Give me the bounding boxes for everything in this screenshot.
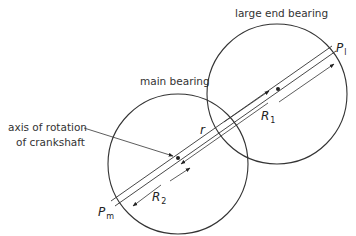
P-l-symbol: Pl	[336, 42, 346, 57]
R2-symbol: R2	[152, 191, 166, 206]
axis-leader-line	[84, 128, 173, 156]
crank-lines	[111, 46, 336, 206]
diagram-canvas	[0, 0, 356, 236]
R1-arrow	[279, 64, 334, 102]
axis-label-line1: axis of rotation	[8, 122, 87, 133]
crankshaft-axis-dot	[176, 156, 180, 160]
lower-force-arrow	[170, 168, 190, 181]
r-symbol: r	[200, 124, 205, 136]
main-bearing-circle	[108, 94, 248, 234]
large-end-bearing-label: large end bearing	[235, 8, 328, 19]
main-bearing-label: main bearing	[140, 76, 210, 87]
P-m-symbol: Pm	[98, 206, 114, 221]
axis-label-line2: of crankshaft	[16, 137, 85, 148]
large-end-bearing-circle	[207, 24, 347, 164]
large-end-center-dot	[276, 87, 280, 91]
R1-symbol: R1	[261, 110, 275, 125]
